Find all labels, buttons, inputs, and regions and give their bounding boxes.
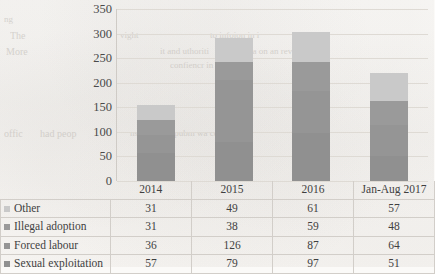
table-header-row: 201420152016Jan-Aug 2017 <box>1 181 435 199</box>
bar-segment-other <box>292 32 330 62</box>
bar-segment-illegal-adoption <box>370 101 408 125</box>
table-corner-cell <box>1 181 111 199</box>
table-cell: 87 <box>273 236 354 255</box>
table-cell: 61 <box>273 199 354 218</box>
legend-label: Forced labour <box>14 239 78 251</box>
table-cell: 51 <box>354 255 435 274</box>
bar-segment-forced-labour <box>370 125 408 156</box>
table-cell: 64 <box>354 236 435 255</box>
bar-segment-sexual-exploitation <box>370 156 408 181</box>
bar-segment-illegal-adoption <box>137 120 175 135</box>
table-row: Illegal adoption31385948 <box>1 218 435 237</box>
bar-segment-sexual-exploitation <box>292 133 330 181</box>
bar-group <box>117 9 428 181</box>
table-cell: 38 <box>192 218 273 237</box>
table-cell: 31 <box>111 199 192 218</box>
bar-slot-jan-aug-2017 <box>350 9 428 181</box>
bar-slot-2014 <box>117 9 195 181</box>
legend-item-sexual-exploitation: Sexual exploitation <box>1 255 111 274</box>
data-table: 201420152016Jan-Aug 2017 Other31496157Il… <box>0 181 435 274</box>
stacked-bar <box>370 73 408 181</box>
table-cell: 79 <box>192 255 273 274</box>
y-axis-tick-label: 300 <box>78 28 112 41</box>
bar-segment-other <box>215 38 253 62</box>
table-row: Forced labour361268764 <box>1 236 435 255</box>
bar-segment-other <box>370 73 408 101</box>
bar-segment-sexual-exploitation <box>137 153 175 181</box>
legend-swatch-icon <box>4 206 10 212</box>
y-axis-tick-label: 350 <box>78 3 112 16</box>
y-axis-tick-label: 100 <box>78 126 112 139</box>
legend-item-other: Other <box>1 199 111 218</box>
table-cell: 36 <box>111 236 192 255</box>
data-table-wrapper: 201420152016Jan-Aug 2017 Other31496157Il… <box>0 181 434 274</box>
legend-item-forced-labour: Forced labour <box>1 236 111 255</box>
bar-segment-forced-labour <box>215 80 253 142</box>
table-body: Other31496157Illegal adoption31385948For… <box>1 199 435 273</box>
table-header-jan-aug-2017: Jan-Aug 2017 <box>354 181 435 199</box>
table-cell: 126 <box>192 236 273 255</box>
bar-segment-other <box>137 105 175 120</box>
table-row: Other31496157 <box>1 199 435 218</box>
bar-slot-2016 <box>273 9 351 181</box>
table-row: Sexual exploitation57799751 <box>1 255 435 274</box>
y-axis-labels: 350300250200150100500 <box>78 9 112 181</box>
y-axis-tick-label: 200 <box>78 77 112 90</box>
bar-segment-illegal-adoption <box>215 62 253 81</box>
table-header-2014: 2014 <box>111 181 192 199</box>
stacked-bar <box>137 105 175 181</box>
stacked-bar <box>215 38 253 181</box>
table-cell: 57 <box>111 255 192 274</box>
legend-label: Illegal adoption <box>14 220 87 232</box>
table-cell: 31 <box>111 218 192 237</box>
y-axis-tick-label: 250 <box>78 52 112 65</box>
y-axis-tick-label: 50 <box>78 150 112 163</box>
bar-segment-forced-labour <box>137 135 175 153</box>
y-axis-tick-label: 150 <box>78 101 112 114</box>
table-cell: 49 <box>192 199 273 218</box>
bar-segment-sexual-exploitation <box>215 142 253 181</box>
legend-swatch-icon <box>4 243 10 249</box>
legend-item-illegal-adoption: Illegal adoption <box>1 218 111 237</box>
legend-label: Other <box>14 202 40 214</box>
legend-swatch-icon <box>4 261 10 267</box>
table-header-2015: 2015 <box>192 181 273 199</box>
table-cell: 97 <box>273 255 354 274</box>
table-cell: 48 <box>354 218 435 237</box>
legend-swatch-icon <box>4 224 10 230</box>
table-cell: 57 <box>354 199 435 218</box>
legend-label: Sexual exploitation <box>14 257 103 269</box>
stacked-bar <box>292 32 330 181</box>
table-cell: 59 <box>273 218 354 237</box>
bar-segment-forced-labour <box>292 91 330 134</box>
bar-slot-2015 <box>195 9 273 181</box>
stacked-bar-chart: 350300250200150100500 <box>0 0 434 186</box>
bar-segment-illegal-adoption <box>292 62 330 91</box>
table-header-2016: 2016 <box>273 181 354 199</box>
plot-area <box>116 9 428 181</box>
